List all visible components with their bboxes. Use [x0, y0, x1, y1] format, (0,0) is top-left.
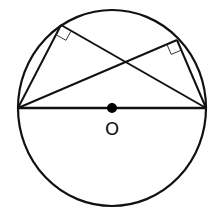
- center-point: [107, 103, 117, 113]
- center-label: O: [105, 118, 119, 139]
- chord-a-p: [18, 25, 61, 108]
- chord-p-b: [61, 25, 206, 108]
- circle-diagram: O: [0, 0, 221, 216]
- chord-q-b: [177, 40, 206, 108]
- chord-a-q: [18, 40, 177, 108]
